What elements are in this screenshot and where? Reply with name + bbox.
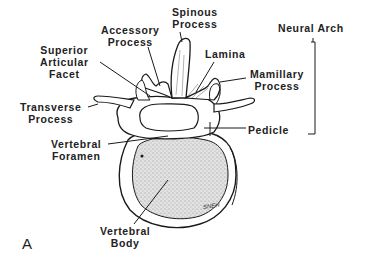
label-superior-articular-facet: Superior Articular Facet — [40, 44, 89, 80]
left-transverse-process — [94, 96, 134, 108]
right-transverse-process — [214, 98, 255, 112]
neural-arch-bracket — [308, 38, 315, 134]
label-neural-arch: Neural Arch — [278, 22, 344, 34]
vertebral-foramen-shape — [140, 104, 199, 131]
spinous-process-shape — [171, 38, 190, 98]
label-pedicle: Pedicle — [248, 124, 289, 136]
label-vertebral-foramen: Vertebral Foramen — [51, 138, 101, 162]
label-spinous-process: Spinous Process — [172, 6, 218, 30]
label-transverse-process: Transverse Process — [20, 101, 81, 125]
label-mamillary-process: Mamillary Process — [250, 68, 304, 92]
panel-label: A — [22, 235, 32, 252]
vertebra-illustration — [0, 0, 369, 267]
label-lamina: Lamina — [205, 48, 245, 60]
label-vertebral-body: Vertebral Body — [100, 225, 150, 249]
label-accessory-process: Accessory Process — [101, 24, 160, 48]
